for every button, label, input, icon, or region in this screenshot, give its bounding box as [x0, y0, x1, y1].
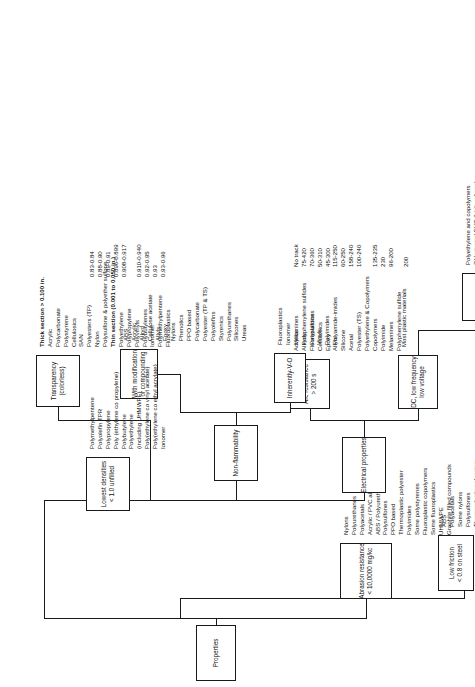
list-item: Some nylons: [456, 435, 464, 527]
node-label: Inherently-V-O: [286, 358, 294, 399]
list-item: Poly (ethylene co propylene): [112, 364, 120, 449]
list-item: Polybutylene: [120, 364, 128, 449]
connector: [58, 407, 59, 421]
list-high-frequency: Polyethylene and copolymersChlorinated P…: [464, 181, 475, 265]
list-item: [363, 244, 371, 267]
list-arc-values: No track75-42070-36050-31045-300115-2506…: [292, 244, 410, 267]
list-item: Polyolefin TPR: [96, 364, 104, 449]
list-item: Polycarbonate: [54, 257, 62, 347]
list-item: Acetal: [347, 276, 355, 351]
list-low-friction: ABSPolyacetalsSome nylonsPolysulfonesThe…: [440, 435, 475, 527]
list-item: Polyacetals: [448, 435, 456, 527]
list-item: 96-200: [387, 244, 395, 267]
list-item: Thermoplastic polyesters: [472, 435, 475, 527]
node-label: low voltage: [418, 366, 426, 398]
node-label: Lowest densities: [100, 461, 108, 508]
list-item: Polysulfones: [464, 435, 472, 527]
list-item: Most plastic materials: [400, 288, 408, 347]
connector: [150, 421, 151, 501]
list-item: Polymethylpentene: [156, 257, 164, 347]
list-item: SAN: [77, 257, 85, 347]
node-properties[interactable]: Properties: [196, 625, 236, 681]
connector: [236, 413, 237, 425]
node-label: > 200 s: [310, 374, 318, 395]
connector: [364, 493, 365, 501]
node-inherently-vo[interactable]: Inherently-V-O: [274, 353, 306, 403]
list-item: Fluoroplastics: [164, 257, 172, 347]
list-item: Polyurethanes: [225, 287, 233, 341]
list-item: 230: [379, 244, 387, 267]
list-item: Some fluoroplastics: [429, 464, 437, 535]
node-transparency[interactable]: Transparency (colorless): [36, 355, 80, 407]
node-abrasion-resistance[interactable]: Abrasion resistance < 10,0000 mg/kc: [340, 543, 392, 599]
list-item: 45-300: [324, 244, 332, 267]
list-item: 50-310: [316, 244, 324, 267]
node-label: (colorless): [58, 366, 66, 395]
connector: [216, 618, 217, 625]
node-high-frequency[interactable]: High frequency high voltage: [462, 273, 475, 321]
node-low-friction[interactable]: Low friction < 0.8 on steel: [438, 535, 474, 591]
list-item: Polyester (TP & TS): [201, 287, 209, 341]
connector: [364, 421, 365, 437]
list-item: 100-240: [355, 244, 363, 267]
connector: [464, 591, 465, 599]
connector: [236, 481, 237, 501]
node-electrical-properties[interactable]: Electrical properties: [342, 437, 386, 493]
list-item: Polypropylene: [125, 257, 133, 347]
connector: [310, 409, 311, 421]
list-lowest-densities-materials: PolymethylpentenePolyolefin TPRPolypropy…: [88, 364, 167, 449]
list-item: Cellulosics: [70, 257, 78, 347]
list-item: ABS: [440, 435, 448, 527]
connector: [418, 330, 475, 331]
list-item: Poly(ethylene co ethyl acrylate): [151, 364, 159, 449]
list-item: Melamines: [292, 283, 300, 345]
list-item: Thin section (0.001 to 0.050 in.): [109, 257, 117, 347]
list-item: PPO based: [185, 287, 193, 341]
list-item: PPO based: [389, 464, 397, 535]
list-item: Thick section > 0.100 in.: [38, 257, 46, 347]
list-item: Polyolefins: [209, 287, 217, 341]
node-label: Properties: [212, 639, 220, 668]
list-item: Silicone: [339, 276, 347, 351]
list-item: Thermoplastic polyester: [397, 464, 405, 535]
list-item: 115-250: [331, 244, 339, 267]
list-item: Polyimides: [405, 464, 413, 535]
list-item: 135-235: [371, 244, 379, 267]
list-inherently-vo: FluoroplasticsIonomerMelaminesPolyphenyl…: [276, 283, 339, 345]
list-item: Polyimides: [323, 283, 331, 345]
diagram-canvas: Properties Abrasion resistance < 10,0000…: [0, 0, 475, 687]
list-item: Polyester (TS): [355, 276, 363, 351]
connector: [58, 420, 151, 421]
node-dc-low-frequency[interactable]: DC, low frequency low voltage: [398, 355, 438, 409]
node-label: Electrical properties: [360, 437, 368, 492]
list-item: 70-360: [308, 244, 316, 267]
list-item: Fluoroplastics: [276, 283, 284, 345]
connector: [44, 501, 45, 619]
list-item: Polyimide: [379, 276, 387, 351]
node-label: < 10,0000 mg/kc: [366, 548, 374, 595]
connector: [180, 375, 181, 413]
list-item: Phenolics: [177, 287, 185, 341]
list-item: Ionomer: [148, 257, 156, 347]
connector: [180, 598, 465, 599]
node-lowest-densities[interactable]: Lowest densities < 1.0 unfilled: [86, 457, 130, 511]
list-item: Polyethylene: [127, 364, 135, 449]
connector: [366, 599, 367, 619]
list-item: Melamines: [387, 276, 395, 351]
list-item: Polysulfone & polyether sulfone: [101, 257, 109, 347]
list-item: Polyamide-imides: [331, 283, 339, 345]
connector: [290, 403, 291, 413]
list-item: Polycarbonate: [193, 287, 201, 341]
connector: [180, 599, 181, 619]
list-item: Polypropylene: [104, 364, 112, 449]
node-label: DC, low frequency: [410, 356, 418, 407]
list-item: Polysulfones: [308, 283, 316, 345]
list-item: Some polystyrenes: [413, 464, 421, 535]
node-non-flammability[interactable]: Non-flammability: [214, 425, 258, 481]
connector: [310, 420, 418, 421]
list-item: Acrylic: [46, 257, 54, 347]
list-item: Silicones: [232, 287, 240, 341]
list-item: 158-240: [347, 244, 355, 267]
list-item: Nylon: [93, 257, 101, 347]
node-label: Transparency: [50, 362, 58, 400]
